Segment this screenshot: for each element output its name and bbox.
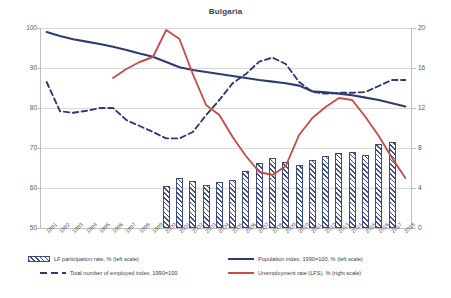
x-axis-tickmark (206, 228, 207, 231)
x-axis-tickmark (405, 228, 406, 231)
y-axis-right-tickmark (412, 228, 416, 229)
x-axis-tickmark (312, 228, 313, 231)
y-axis-right-tick-label: 0 (418, 224, 442, 231)
y-axis-left-tick-label: 100 (15, 24, 37, 31)
legend-item-employed-index[interactable]: Total number of employed index, 1990=100 (40, 270, 177, 276)
chart-legend: LF participation rate, % (left scale)Pop… (0, 256, 451, 290)
x-axis-tickmark (126, 228, 127, 231)
x-axis-tickmark (113, 228, 114, 231)
y-axis-left-tick-label: 70 (15, 144, 37, 151)
legend-label: Total number of employed index, 1990=100 (70, 270, 177, 276)
x-axis-tickmark (259, 228, 260, 231)
legend-label: Unemployment rate (LFS), % (right scale) (258, 270, 361, 276)
x-axis-tickmark (87, 228, 88, 231)
y-axis-right-tick-label: 8 (418, 144, 442, 151)
x-axis-tickmark (193, 228, 194, 231)
chart-title: Bulgaria (0, 7, 451, 16)
x-axis-tickmark (73, 228, 74, 231)
y-axis-left-tick-label: 50 (15, 224, 37, 231)
x-axis-tickmark (60, 228, 61, 231)
x-axis-tickmark (286, 228, 287, 231)
x-axis-tickmark (299, 228, 300, 231)
line-unemployment-rate (113, 30, 405, 178)
x-axis-tickmark (273, 228, 274, 231)
plot-area (40, 28, 412, 228)
x-axis-tickmark (366, 228, 367, 231)
y-axis-right-tick-label: 16 (418, 64, 442, 71)
y-axis-right-tickmark (412, 148, 416, 149)
chart-container: Bulgaria 1991199219931994199519961997199… (0, 0, 451, 298)
y-axis-left-tickmark (36, 68, 40, 69)
x-axis-tickmark (180, 228, 181, 231)
y-axis-left-tickmark (36, 188, 40, 189)
y-axis-left-tick-label: 60 (15, 184, 37, 191)
x-axis-tickmark (47, 228, 48, 231)
x-axis-tickmark (166, 228, 167, 231)
x-axis-tickmark (392, 228, 393, 231)
y-axis-right-tickmark (412, 108, 416, 109)
solid-line-swatch (228, 258, 254, 260)
y-axis-right-tick-label: 4 (418, 184, 442, 191)
legend-item-population-index[interactable]: Population index, 1990=100, % (left scal… (228, 256, 363, 262)
x-axis-tickmark (233, 228, 234, 231)
y-axis-left-tickmark (36, 148, 40, 149)
x-axis-tickmark (339, 228, 340, 231)
y-axis-left-tickmark (36, 228, 40, 229)
y-axis-left-tick-label: 80 (15, 104, 37, 111)
bar-hatch-swatch (28, 256, 50, 262)
x-axis-tickmark (219, 228, 220, 231)
legend-item-lf-participation[interactable]: LF participation rate, % (left scale) (28, 256, 139, 262)
legend-label: LF participation rate, % (left scale) (54, 256, 139, 262)
x-axis-tickmark (153, 228, 154, 231)
x-axis-tickmark (352, 228, 353, 231)
legend-label: Population index, 1990=100, % (left scal… (258, 256, 363, 262)
line-series-overlay (40, 28, 412, 228)
y-axis-left-tickmark (36, 108, 40, 109)
y-axis-right-tick-label: 20 (418, 24, 442, 31)
x-axis-tickmark (140, 228, 141, 231)
y-axis-right-tickmark (412, 188, 416, 189)
y-axis-right-tick-label: 12 (418, 104, 442, 111)
x-axis-tickmark (100, 228, 101, 231)
line-population-index (47, 32, 406, 106)
y-axis-left-tick-label: 90 (15, 64, 37, 71)
y-axis-left-tickmark (36, 28, 40, 29)
red-line-swatch (228, 272, 254, 274)
x-axis-tickmark (246, 228, 247, 231)
dashed-line-swatch (40, 272, 66, 274)
y-axis-right-tickmark (412, 68, 416, 69)
legend-item-unemployment-rate[interactable]: Unemployment rate (LFS), % (right scale) (228, 270, 361, 276)
x-axis-tickmark (326, 228, 327, 231)
x-axis-tickmark (379, 228, 380, 231)
y-axis-right-tickmark (412, 28, 416, 29)
